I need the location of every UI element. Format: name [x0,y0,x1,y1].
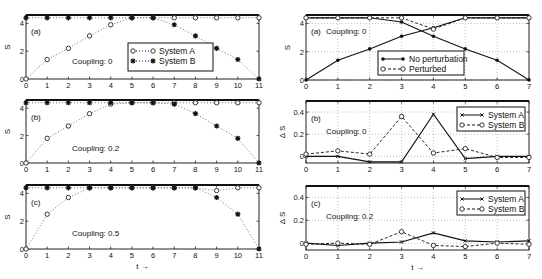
svg-text:5: 5 [463,165,467,174]
svg-text:3: 3 [87,165,91,174]
y-axis-label: S [3,44,12,49]
svg-text:6: 6 [151,81,155,90]
panel-left-c: 01234567891011024St →(c)Coupling: 0.5 [3,185,263,271]
svg-text:0: 0 [20,75,24,84]
svg-text:8: 8 [193,81,197,90]
axes-frame [26,185,259,249]
svg-text:1: 1 [336,82,340,91]
panel-right-a: 01234567024S(a)Coupling: 0No perturbatio… [283,15,531,91]
svg-text:5: 5 [130,81,134,90]
svg-text:3: 3 [399,252,403,261]
legend-entry: Perturbed [409,64,447,74]
svg-text:10: 10 [234,165,242,174]
panel-label: (b) [31,113,41,122]
svg-text:9: 9 [215,251,219,260]
svg-text:4: 4 [431,82,435,91]
svg-text:2: 2 [368,252,372,261]
svg-text:7: 7 [172,81,176,90]
series-system-a [24,186,261,252]
svg-text:3: 3 [399,82,403,91]
svg-text:7: 7 [172,165,176,174]
svg-text:0: 0 [24,81,28,90]
svg-text:6: 6 [495,252,499,261]
svg-text:8: 8 [193,165,197,174]
coupling-annotation: Coupling: 0 [72,57,113,66]
svg-text:1: 1 [336,165,340,174]
svg-text:6: 6 [151,165,155,174]
svg-text:7: 7 [172,251,176,260]
svg-text:11: 11 [255,81,263,90]
svg-text:2: 2 [66,81,70,90]
svg-text:3: 3 [87,251,91,260]
panel-right-b: 0123456700.20.4Δ S(b)Coupling: 0System A… [278,101,531,174]
coupling-annotation: Coupling: 0 [326,127,367,136]
y-axis-label: Δ S [278,126,287,138]
svg-text:11: 11 [255,251,263,260]
coupling-annotation: Coupling: 0 [326,27,367,36]
svg-text:0: 0 [24,251,28,260]
svg-text:0: 0 [300,76,304,85]
svg-text:4: 4 [20,104,24,113]
svg-text:8: 8 [193,251,197,260]
y-tick-labels: 024 [20,104,259,168]
svg-text:7: 7 [527,252,531,261]
svg-text:6: 6 [495,165,499,174]
svg-text:4: 4 [109,81,113,90]
panel-label: (c) [311,199,321,208]
svg-text:1: 1 [45,165,49,174]
y-axis-label: S [3,129,12,134]
legend-entry: System A [488,194,524,204]
svg-text:0: 0 [20,245,24,254]
svg-text:10: 10 [234,251,242,260]
axes-frame [26,100,259,163]
svg-text:4: 4 [431,165,435,174]
panel-label: (b) [311,114,321,123]
figure: 01234567891011024S(a)Coupling: 0System A… [0,0,542,279]
legend-entry: System A [159,46,195,56]
y-axis-label: S [3,214,12,219]
svg-text:3: 3 [87,81,91,90]
svg-text:0: 0 [20,159,24,168]
legend: No perturbationPerturbed [378,51,468,75]
svg-text:0: 0 [304,252,308,261]
y-tick-labels: 024 [20,189,259,254]
svg-text:5: 5 [463,252,467,261]
svg-text:7: 7 [527,165,531,174]
x-axis-label: t → [411,263,423,272]
legend-entry: System B [159,56,196,66]
svg-text:2: 2 [368,82,372,91]
legend: System ASystem B [457,191,525,215]
svg-text:0: 0 [300,239,304,248]
panel-left-b: 01234567891011024S(b)Coupling: 0.2 [3,100,263,174]
svg-text:7: 7 [527,82,531,91]
legend-entry: No perturbation [409,54,468,64]
svg-text:1: 1 [336,252,340,261]
svg-text:10: 10 [234,81,242,90]
svg-text:5: 5 [130,165,134,174]
coupling-annotation: Coupling: 0.5 [72,229,120,238]
svg-text:2: 2 [66,165,70,174]
svg-text:2: 2 [66,251,70,260]
svg-text:0.2: 0.2 [294,130,304,139]
svg-text:4: 4 [20,19,24,28]
svg-text:6: 6 [151,251,155,260]
svg-text:2: 2 [20,132,24,141]
y-axis-label: S [283,45,292,50]
svg-text:4: 4 [431,252,435,261]
svg-text:4: 4 [109,165,113,174]
svg-text:0.4: 0.4 [294,193,304,202]
svg-text:3: 3 [399,165,403,174]
legend-entry: System A [488,110,524,120]
svg-text:0: 0 [300,152,304,161]
svg-text:0.4: 0.4 [294,108,304,117]
svg-text:0: 0 [304,82,308,91]
svg-text:4: 4 [20,189,24,198]
series-system-b [23,185,261,251]
series-system-a [24,101,261,166]
svg-text:9: 9 [215,165,219,174]
svg-text:11: 11 [255,165,263,174]
svg-text:5: 5 [463,82,467,91]
svg-text:0: 0 [24,165,28,174]
svg-text:2: 2 [368,165,372,174]
legend: System ASystem B [457,107,525,131]
